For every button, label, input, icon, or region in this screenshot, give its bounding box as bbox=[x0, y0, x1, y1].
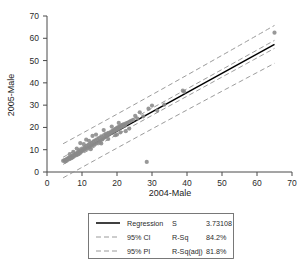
data-point bbox=[127, 126, 131, 130]
data-point bbox=[106, 137, 110, 141]
pi-band-upper bbox=[63, 25, 274, 143]
data-point bbox=[71, 150, 75, 154]
legend-label-pi: 95% PI bbox=[127, 247, 150, 256]
data-point bbox=[94, 132, 98, 136]
regression-bands bbox=[63, 25, 274, 177]
y-tick-label-70: 70 bbox=[30, 11, 40, 21]
x-tick-label-10: 10 bbox=[77, 178, 87, 188]
x-tick-label-70: 70 bbox=[287, 178, 297, 188]
x-tick-label-40: 40 bbox=[182, 178, 192, 188]
stat-value-rsqadj: 81.8% bbox=[206, 247, 227, 256]
data-point bbox=[146, 107, 150, 111]
y-tick-label-60: 60 bbox=[30, 33, 40, 43]
data-point bbox=[118, 130, 122, 134]
legend-label-ci: 95% CI bbox=[127, 233, 151, 242]
data-point bbox=[155, 109, 159, 113]
data-point bbox=[141, 114, 145, 118]
data-point bbox=[131, 118, 135, 122]
plot-svg: 010203040506070 010203040506070 2004-Mal… bbox=[0, 0, 300, 274]
data-point bbox=[138, 110, 142, 114]
data-point bbox=[115, 132, 119, 136]
y-axis-title: 2005-Male bbox=[6, 74, 16, 117]
stat-name-rsq: R-Sq bbox=[172, 233, 188, 242]
data-point bbox=[89, 147, 93, 151]
data-point bbox=[135, 116, 139, 120]
ci-band-lower bbox=[63, 48, 274, 164]
data-point bbox=[68, 152, 72, 156]
data-point bbox=[110, 124, 114, 128]
data-point bbox=[117, 121, 121, 125]
data-point bbox=[182, 90, 186, 94]
pi-band-lower bbox=[63, 63, 274, 178]
legend: Regression 95% CI 95% PI S 3.73108 R-Sq … bbox=[89, 214, 234, 259]
data-point bbox=[102, 128, 106, 132]
stat-name-s: S bbox=[172, 219, 177, 228]
data-point bbox=[162, 103, 166, 107]
y-tick-label-40: 40 bbox=[30, 78, 40, 88]
y-tick-label-10: 10 bbox=[30, 145, 40, 155]
x-tick-label-50: 50 bbox=[217, 178, 227, 188]
data-point bbox=[75, 147, 79, 151]
x-axis-title: 2004-Male bbox=[149, 188, 192, 198]
legend-label-regression: Regression bbox=[127, 219, 163, 228]
y-tick-label-20: 20 bbox=[30, 122, 40, 132]
scatter-points bbox=[61, 31, 277, 164]
data-point bbox=[272, 31, 276, 35]
data-point bbox=[82, 142, 86, 146]
fitted-line-plot: 010203040506070 010203040506070 2004-Mal… bbox=[0, 0, 300, 274]
y-axis-ticks: 010203040506070 bbox=[30, 11, 47, 177]
data-point bbox=[145, 160, 149, 164]
x-tick-label-30: 30 bbox=[147, 178, 157, 188]
y-tick-label-50: 50 bbox=[30, 56, 40, 66]
y-tick-label-30: 30 bbox=[30, 100, 40, 110]
data-point bbox=[124, 129, 128, 133]
stat-value-s: 3.73108 bbox=[206, 219, 232, 228]
data-point bbox=[150, 103, 154, 107]
x-tick-label-0: 0 bbox=[45, 178, 50, 188]
data-point bbox=[99, 141, 103, 145]
stat-name-rsqadj: R-Sq(adj) bbox=[172, 247, 203, 256]
x-tick-label-20: 20 bbox=[112, 178, 122, 188]
y-tick-label-0: 0 bbox=[34, 167, 39, 177]
x-axis-ticks: 010203040506070 bbox=[45, 172, 297, 188]
data-point bbox=[87, 139, 91, 143]
stat-value-rsq: 84.2% bbox=[206, 233, 227, 242]
x-tick-label-60: 60 bbox=[252, 178, 262, 188]
